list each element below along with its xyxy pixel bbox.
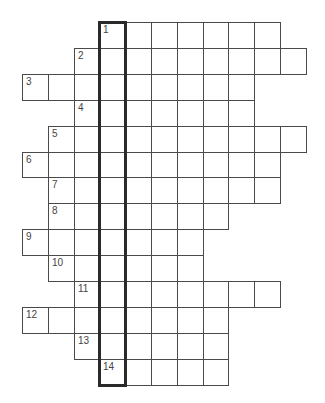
crossword-cell[interactable]: 3: [22, 74, 49, 101]
crossword-cell[interactable]: [177, 48, 204, 75]
crossword-cell[interactable]: [99, 152, 126, 178]
crossword-cell[interactable]: [99, 177, 126, 204]
crossword-cell[interactable]: [254, 48, 281, 75]
crossword-cell[interactable]: [177, 281, 204, 308]
crossword-cell[interactable]: [203, 22, 229, 49]
crossword-cell[interactable]: [203, 152, 229, 178]
crossword-cell[interactable]: [177, 255, 204, 282]
crossword-cell[interactable]: [203, 74, 229, 101]
crossword-cell[interactable]: 11: [74, 281, 100, 308]
crossword-cell[interactable]: [151, 255, 178, 282]
crossword-cell[interactable]: [151, 126, 178, 153]
crossword-cell[interactable]: [254, 126, 281, 153]
crossword-cell[interactable]: [99, 229, 126, 256]
crossword-cell[interactable]: [99, 48, 126, 75]
crossword-cell[interactable]: [228, 100, 255, 127]
crossword-cell[interactable]: [151, 281, 178, 308]
crossword-cell[interactable]: [151, 22, 178, 49]
crossword-cell[interactable]: 9: [22, 229, 49, 256]
crossword-cell[interactable]: [125, 126, 152, 153]
crossword-cell[interactable]: [74, 177, 100, 204]
crossword-cell[interactable]: [177, 203, 204, 230]
crossword-cell[interactable]: [99, 74, 126, 101]
crossword-cell[interactable]: [99, 307, 126, 334]
crossword-cell[interactable]: 4: [74, 100, 100, 127]
crossword-cell[interactable]: [151, 229, 178, 256]
crossword-cell[interactable]: [74, 74, 100, 101]
crossword-cell[interactable]: [151, 177, 178, 204]
crossword-cell[interactable]: [125, 48, 152, 75]
crossword-cell[interactable]: 8: [48, 203, 75, 230]
crossword-cell[interactable]: [177, 177, 204, 204]
crossword-cell[interactable]: [48, 229, 75, 256]
crossword-cell[interactable]: 2: [74, 48, 100, 75]
crossword-cell[interactable]: [177, 74, 204, 101]
crossword-cell[interactable]: [74, 229, 100, 256]
crossword-cell[interactable]: [177, 100, 204, 127]
crossword-cell[interactable]: [74, 203, 100, 230]
crossword-cell[interactable]: [125, 177, 152, 204]
crossword-cell[interactable]: [74, 152, 100, 178]
crossword-cell[interactable]: [203, 359, 229, 386]
crossword-cell[interactable]: [125, 255, 152, 282]
crossword-cell[interactable]: [125, 333, 152, 360]
crossword-cell[interactable]: [228, 126, 255, 153]
crossword-cell[interactable]: 10: [48, 255, 75, 282]
crossword-cell[interactable]: [254, 177, 281, 204]
crossword-cell[interactable]: 12: [22, 307, 49, 334]
crossword-cell[interactable]: [177, 229, 204, 256]
crossword-cell[interactable]: [203, 203, 229, 230]
crossword-cell[interactable]: [280, 48, 307, 75]
crossword-cell[interactable]: [125, 22, 152, 49]
crossword-cell[interactable]: [125, 229, 152, 256]
crossword-cell[interactable]: [125, 152, 152, 178]
crossword-cell[interactable]: [177, 152, 204, 178]
crossword-cell[interactable]: [151, 333, 178, 360]
crossword-cell[interactable]: [99, 100, 126, 127]
crossword-cell[interactable]: [228, 74, 255, 101]
crossword-cell[interactable]: [254, 22, 281, 49]
crossword-cell[interactable]: 6: [22, 152, 49, 178]
crossword-cell[interactable]: [203, 281, 229, 308]
crossword-cell[interactable]: [203, 307, 229, 334]
crossword-cell[interactable]: [151, 74, 178, 101]
crossword-cell[interactable]: [74, 126, 100, 153]
crossword-cell[interactable]: [125, 281, 152, 308]
crossword-cell[interactable]: [203, 100, 229, 127]
crossword-cell[interactable]: [74, 255, 100, 282]
crossword-cell[interactable]: [125, 100, 152, 127]
crossword-cell[interactable]: [203, 126, 229, 153]
crossword-cell[interactable]: [48, 307, 75, 334]
crossword-cell[interactable]: [177, 126, 204, 153]
crossword-cell[interactable]: [228, 281, 255, 308]
crossword-cell[interactable]: [151, 152, 178, 178]
crossword-cell[interactable]: [280, 126, 307, 153]
crossword-cell[interactable]: [203, 177, 229, 204]
crossword-cell[interactable]: [99, 255, 126, 282]
crossword-cell[interactable]: [99, 203, 126, 230]
crossword-cell[interactable]: [177, 333, 204, 360]
crossword-cell[interactable]: [228, 152, 255, 178]
crossword-cell[interactable]: 13: [74, 333, 100, 360]
crossword-cell[interactable]: [254, 152, 281, 178]
crossword-cell[interactable]: [228, 22, 255, 49]
crossword-cell[interactable]: [203, 333, 229, 360]
crossword-cell[interactable]: [228, 48, 255, 75]
crossword-cell[interactable]: [254, 281, 281, 308]
crossword-cell[interactable]: [99, 126, 126, 153]
crossword-cell[interactable]: [151, 307, 178, 334]
crossword-cell[interactable]: [177, 22, 204, 49]
crossword-cell[interactable]: [74, 307, 100, 334]
crossword-cell[interactable]: [151, 203, 178, 230]
crossword-cell[interactable]: [177, 359, 204, 386]
crossword-cell[interactable]: [125, 74, 152, 101]
crossword-cell[interactable]: 5: [48, 126, 75, 153]
crossword-cell[interactable]: [48, 74, 75, 101]
crossword-cell[interactable]: [99, 281, 126, 308]
crossword-cell[interactable]: [151, 100, 178, 127]
crossword-cell[interactable]: [151, 48, 178, 75]
crossword-cell[interactable]: 14: [99, 359, 126, 386]
crossword-cell[interactable]: [99, 333, 126, 360]
crossword-cell[interactable]: [48, 152, 75, 178]
crossword-cell[interactable]: 7: [48, 177, 75, 204]
